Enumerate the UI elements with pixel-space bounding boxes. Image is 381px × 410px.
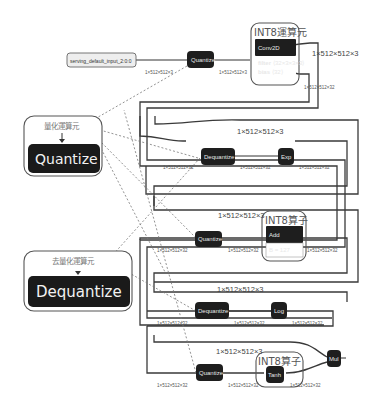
edge-label: 1×512×512×32 — [157, 321, 188, 326]
node-quantize-4[interactable]: Quantize — [196, 364, 224, 381]
node-log[interactable]: Log — [271, 302, 287, 319]
edge-label: 1×512×512×32 — [292, 321, 323, 326]
attr-key: filter — [258, 60, 272, 66]
node-label: Add — [269, 232, 280, 238]
input-node-label: serving_default_input_2:0:0 — [70, 58, 132, 64]
node-label: Mul — [329, 356, 339, 362]
edge-label: 1×512×512×3 — [217, 285, 264, 294]
legend-caption: 去量化運算元 — [52, 256, 95, 266]
edge-label: 1×512×512×32 — [228, 248, 259, 253]
node-quantize-top[interactable]: Quantize — [187, 51, 216, 68]
edge-label: 1×512×512×3 — [218, 211, 265, 220]
attr-text: B = 127 — [269, 247, 291, 253]
edge-label: 1×512×512×32 — [307, 248, 338, 253]
edge-label: 1×512×512×32 — [304, 85, 335, 90]
pointer-dequant-1b — [110, 158, 200, 258]
edge-label: 1×512×512×32 — [290, 383, 321, 388]
legend-node-dequantize: Dequantize — [28, 276, 130, 307]
edge-label: 1×512×512×32 — [240, 165, 271, 170]
edge-label: 1×512×512×3 — [219, 70, 247, 75]
node-label: Log — [274, 308, 284, 314]
legend-node-quantize: Quantize — [28, 144, 100, 173]
edge-label: 1×512×512×3 — [145, 70, 173, 75]
node-label: Tanh — [268, 372, 281, 378]
node-tanh[interactable]: Tanh — [266, 366, 284, 383]
edge-label: 1×512×512×3 — [312, 49, 359, 58]
model-graph: serving_default_input_2:0:0 1×512×512×3 … — [0, 0, 381, 410]
row2-right — [140, 238, 347, 282]
legend-node-label: Dequantize — [36, 283, 122, 301]
node-exp[interactable]: Exp — [278, 148, 294, 165]
node-dequantize-3[interactable]: Dequantize — [195, 302, 229, 319]
node-dequantize-1[interactable]: Dequantize — [201, 148, 235, 165]
legend-dequantize: 去量化運算元 Dequantize — [24, 251, 132, 311]
node-label: Dequantize — [198, 308, 229, 314]
node-conv2d[interactable]: Conv2D filter⟨32×3×3×3⟩ bias⟨32⟩ — [255, 39, 304, 81]
node-label: Quantize — [199, 370, 224, 376]
edge-label: 1×512×512×32 — [234, 321, 265, 326]
edge-label: 1×512×512×3 — [216, 347, 263, 356]
edge-label: 1×512×512×32 — [163, 165, 194, 170]
node-quantize-2[interactable]: Quantize — [195, 231, 223, 247]
int8-group-title: INT8運算元 — [254, 26, 307, 38]
edge-label: 1×512×512×3 — [237, 127, 284, 136]
int8-group-title: INT8算子 — [265, 214, 308, 226]
attr-val: ⟨32⟩ — [272, 69, 283, 75]
edge-label: 1×512×512×32 — [228, 383, 259, 388]
edge-label: 1×512×512×32 — [157, 383, 188, 388]
node-mul[interactable]: Mul — [327, 350, 341, 367]
node-label: Quantize — [198, 236, 223, 242]
node-label: Quantize — [191, 57, 216, 63]
svg-text:filter⟨32×3×3×3⟩: filter⟨32×3×3×3⟩ — [258, 60, 304, 66]
attr-val: ⟨32×3×3×3⟩ — [273, 60, 304, 66]
edge-label: 1×512×512×32 — [299, 165, 330, 170]
legend-node-label: Quantize — [35, 151, 98, 167]
legend-quantize: 量化運算元 Quantize — [24, 116, 102, 176]
node-label: Dequantize — [204, 154, 235, 160]
int8-group-title: INT8算子 — [258, 355, 301, 367]
legend-caption: 量化運算元 — [44, 121, 80, 131]
pointer-quant-4 — [124, 110, 196, 373]
edge-label: 1×512×512×32 — [157, 248, 188, 253]
attr-key: bias — [258, 69, 271, 75]
node-label: Exp — [281, 154, 292, 160]
node-add[interactable]: Add B = 127 — [266, 226, 303, 257]
input-node[interactable]: serving_default_input_2:0:0 — [67, 53, 136, 67]
node-label: Conv2D — [258, 45, 280, 51]
